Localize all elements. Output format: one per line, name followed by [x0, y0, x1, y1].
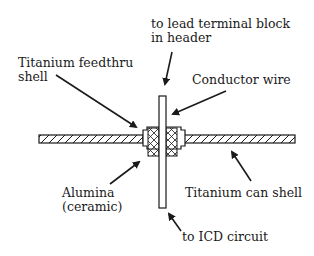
- label-feedthru-shell: Titanium feedthru shell: [18, 56, 133, 84]
- label-alumina: Alumina (ceramic): [62, 186, 122, 214]
- arrow-can-shell: [232, 152, 251, 181]
- conductor-wire: [159, 96, 166, 208]
- arrow-lead-terminal: [165, 52, 172, 84]
- label-alumina-line1: Alumina: [62, 186, 122, 200]
- label-can-shell: Titanium can shell: [185, 186, 302, 200]
- label-feedthru-shell-line2: shell: [18, 70, 133, 84]
- label-lead-terminal: to lead terminal block in header: [151, 17, 290, 45]
- label-conductor-wire: Conductor wire: [192, 73, 291, 87]
- arrow-conductor-wire: [173, 91, 226, 114]
- arrow-alumina: [110, 162, 139, 184]
- label-lead-terminal-line1: to lead terminal block: [151, 17, 290, 31]
- label-feedthru-shell-line1: Titanium feedthru: [18, 56, 133, 70]
- label-alumina-line2: (ceramic): [62, 200, 122, 214]
- arrow-icd-circuit: [169, 214, 181, 231]
- feedthrough-diagram: to lead terminal block in header Titaniu…: [0, 0, 314, 256]
- label-lead-terminal-line2: in header: [151, 31, 290, 45]
- label-icd-circuit: to ICD circuit: [182, 230, 268, 244]
